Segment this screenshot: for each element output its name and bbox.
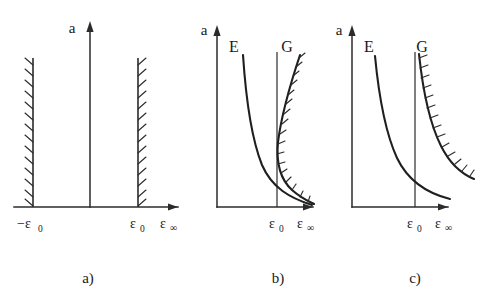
tick-symbol: ε [269, 216, 275, 231]
panel-a-boundary-epsilon0 [138, 58, 146, 207]
panel-b-y-axis [213, 25, 220, 207]
panel-b-curve-g [278, 55, 314, 204]
panel-a-boundary-minus-epsilon0 [25, 58, 33, 207]
panel-c-x-axis-label: ε ∞ [435, 216, 452, 233]
tick-subscript: 0 [417, 224, 422, 234]
panel-b-curve-label-g: G [281, 38, 293, 55]
panel-b: a E G ε 0 ε ∞ b) [201, 22, 314, 287]
hatching-left [25, 58, 33, 206]
x-axis-symbol: ε [297, 216, 303, 231]
panel-c-curve-g [419, 54, 474, 179]
figure-canvas: a −ε 0 ε 0 ε ∞ a) [0, 0, 489, 305]
tick-subscript: 0 [279, 224, 284, 234]
panel-c-x-axis [352, 203, 448, 210]
panel-c-curve-e [375, 56, 450, 199]
figure-root: a −ε 0 ε 0 ε ∞ a) [0, 0, 489, 305]
tick-symbol: −ε [17, 216, 31, 231]
panel-b-caption: b) [272, 270, 285, 287]
panel-b-curve-g-hatching [277, 53, 310, 202]
panel-a-x-axis-label: ε ∞ [160, 216, 177, 233]
hatching-right [138, 58, 146, 206]
y-axis-arrow-icon [213, 25, 220, 36]
x-axis-subscript: ∞ [170, 222, 177, 233]
panel-a-y-axis-label: a [69, 20, 76, 36]
panel-a-tick-label-epsilon0: ε 0 [130, 216, 145, 234]
panel-a-y-axis [86, 21, 93, 207]
panel-a: a −ε 0 ε 0 ε ∞ a) [14, 20, 178, 287]
panel-c-tick-label-epsilon0: ε 0 [407, 216, 422, 234]
panel-b-tick-label-epsilon0: ε 0 [269, 216, 284, 234]
panel-c-curve-label-e: E [364, 38, 374, 55]
tick-subscript: 0 [38, 224, 43, 234]
tick-symbol: ε [130, 216, 136, 231]
x-axis-arrow-icon [168, 203, 178, 210]
panel-c-curve-g-hatching [419, 55, 474, 176]
x-axis-arrow-icon [438, 203, 448, 210]
x-axis-symbol: ε [435, 216, 441, 231]
panel-b-x-axis-label: ε ∞ [297, 216, 314, 233]
panel-a-tick-label-minus-epsilon0: −ε 0 [17, 216, 43, 234]
tick-symbol: ε [407, 216, 413, 231]
panel-c-caption: c) [409, 270, 421, 287]
x-axis-subscript: ∞ [445, 222, 452, 233]
panel-c-y-axis [348, 25, 355, 207]
y-axis-arrow-icon [348, 25, 355, 36]
panel-b-y-axis-label: a [201, 22, 208, 38]
tick-subscript: 0 [140, 224, 145, 234]
x-axis-subscript: ∞ [307, 222, 314, 233]
y-axis-arrow-icon [86, 21, 93, 32]
panel-a-x-axis [14, 203, 178, 210]
x-axis-symbol: ε [160, 216, 166, 231]
panel-a-caption: a) [82, 270, 94, 287]
panel-c: a E G ε 0 ε ∞ c) [336, 22, 474, 287]
panel-c-curve-label-g: G [416, 38, 428, 55]
panel-b-x-axis [217, 203, 313, 210]
panel-c-y-axis-label: a [336, 22, 343, 38]
panel-b-curve-label-e: E [229, 38, 239, 55]
